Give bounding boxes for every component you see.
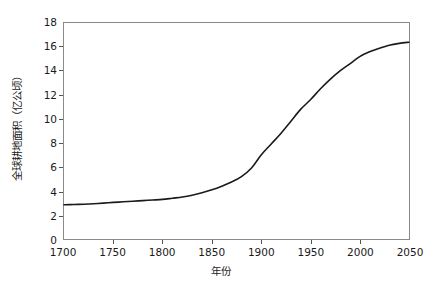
x-tick-label: 1900 bbox=[248, 247, 275, 258]
plot-area bbox=[63, 22, 410, 240]
y-tick-label: 0 bbox=[7, 235, 57, 246]
x-tick-label: 2050 bbox=[397, 247, 424, 258]
x-tick-label: 1750 bbox=[99, 247, 126, 258]
data-series-line bbox=[64, 42, 409, 205]
x-axis-title: 年份 bbox=[0, 266, 432, 277]
chart-figure: 024681012141618 170017501800185019001950… bbox=[0, 0, 432, 293]
data-curve-svg bbox=[64, 23, 409, 239]
x-tick-label: 1800 bbox=[149, 247, 176, 258]
x-tick-mark bbox=[162, 240, 163, 244]
x-tick-mark bbox=[311, 240, 312, 244]
y-axis-title: 全球耕地面积（亿公顷） bbox=[12, 26, 23, 226]
x-axis-title-text: 年份 bbox=[211, 266, 231, 277]
x-tick-mark bbox=[212, 240, 213, 244]
x-tick-label: 1700 bbox=[50, 247, 77, 258]
x-tick-mark bbox=[113, 240, 114, 244]
x-tick-label: 2000 bbox=[347, 247, 374, 258]
x-tick-mark bbox=[360, 240, 361, 244]
x-tick-mark bbox=[261, 240, 262, 244]
x-tick-label: 1950 bbox=[297, 247, 324, 258]
x-tick-label: 1850 bbox=[198, 247, 225, 258]
